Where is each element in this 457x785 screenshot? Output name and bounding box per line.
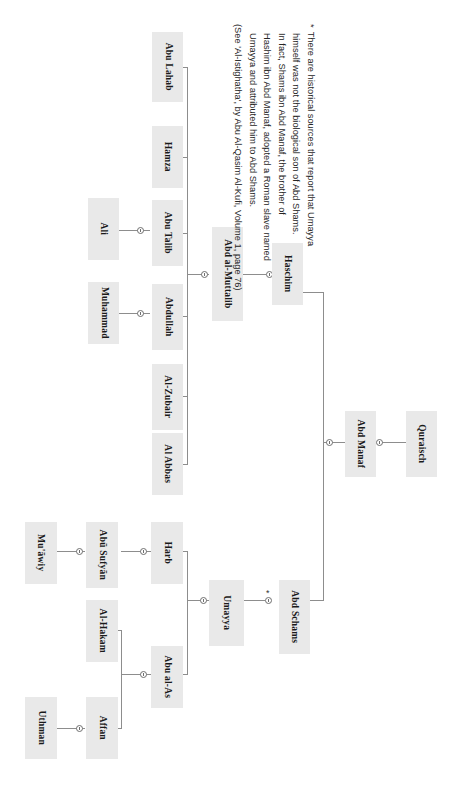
node-label: Ali (99, 223, 109, 236)
node-muawiy[interactable]: Mu'āwiy (25, 522, 57, 584)
node-quraisch[interactable]: Quraisch (406, 411, 437, 477)
junction-abu-talib (137, 227, 144, 234)
node-label: Quraisch (417, 424, 427, 463)
node-label: Affan (97, 716, 107, 740)
node-label: Al-Hakam (97, 609, 107, 653)
node-al-abbas[interactable]: Al Abbas (152, 433, 183, 495)
node-affan[interactable]: Affan (86, 697, 118, 759)
footnote-asterisk: * (306, 24, 316, 28)
node-label: Al Abbas (163, 445, 173, 484)
footnote-line-2: himself was not the biological son of Ab… (289, 24, 304, 286)
node-label: Umayya (222, 596, 232, 631)
junction-abu-al-as (140, 671, 147, 678)
footnote-block: *There are historical sources that repor… (230, 24, 318, 286)
node-abu-sufyan[interactable]: Abū Sufyān (86, 522, 118, 588)
node-label: Mu'āwiy (36, 534, 46, 571)
node-abd-manaf[interactable]: Abd Manaf (345, 411, 376, 477)
junction-abd-schams-umayya (265, 597, 272, 604)
node-umayya[interactable]: Umayya (209, 580, 244, 646)
node-al-zubair[interactable]: Al-Zubair (152, 364, 183, 430)
junction-abd-manaf (326, 439, 333, 446)
edge-quraisch-abd-manaf (382, 442, 406, 443)
junction-abd-al-muttalib (201, 271, 208, 278)
node-label: Abd Manaf (356, 420, 366, 469)
node-label: Uthman (36, 711, 46, 745)
edge-children-bus-umayyads (187, 551, 188, 674)
node-ali[interactable]: Ali (88, 198, 119, 260)
node-abu-talib[interactable]: Abu Talib (152, 200, 183, 266)
node-harb[interactable]: Harb (151, 522, 183, 584)
junction-affan (76, 725, 83, 732)
footnote-marker-edge: * (266, 589, 270, 598)
junction-quraisch (376, 439, 383, 446)
edge-children-bus-abu-al-as (121, 630, 122, 728)
node-muhammad[interactable]: Muhammad (88, 282, 119, 344)
node-hamza[interactable]: Hamza (152, 126, 183, 188)
node-label: Abū Sufyān (97, 530, 107, 580)
footnote-line-6: (See 'Al-Istighatha', by Abu Al-Qasim Al… (230, 24, 245, 286)
edge-abd-schams-umayya (243, 600, 265, 601)
node-abd-schams[interactable]: Abd Schams (279, 580, 310, 654)
node-abu-al-as[interactable]: Abu al-As (151, 646, 183, 708)
junction-harb (140, 548, 147, 555)
footnote-line-5: Umayya and attributed him to Abd Shams. (245, 24, 260, 286)
junction-umayya (200, 597, 207, 604)
node-abu-lahab[interactable]: Abu Lahab (152, 32, 183, 102)
footnote-line-4: Hashim ibn Abd Manaf, adopted a Roman sl… (260, 24, 275, 286)
footnote-line-1: *There are historical sources that repor… (303, 24, 318, 286)
junction-abdullah (137, 310, 144, 317)
junction-abu-sufyan (76, 548, 83, 555)
edge-children-bus-hashimids (187, 67, 188, 464)
node-al-hakam[interactable]: Al-Hakam (86, 600, 118, 662)
edge-abd-manaf-bus (323, 292, 324, 600)
node-label: Harb (162, 542, 172, 564)
edge-abd-manaf-haschim (303, 292, 324, 293)
node-label: Abdullah (163, 297, 173, 337)
node-label: Hamza (163, 142, 173, 172)
node-label: Abu al-As (162, 656, 172, 699)
node-label: Abd Schams (290, 591, 300, 644)
node-label: Al-Zubair (163, 376, 173, 419)
footnote-line-3: In fact, Shams ibn Abd Manaf, the brothe… (274, 24, 289, 286)
node-uthman[interactable]: Uthman (25, 697, 57, 759)
node-label: Muhammad (99, 287, 109, 339)
genealogy-diagram-canvas: * Abu Lahab Hamza Abu Talib Abdullah Al-… (0, 0, 457, 785)
node-label: Abu Talib (163, 212, 173, 254)
footnote-text: There are historical sources that report… (306, 32, 316, 246)
node-label: Abu Lahab (163, 43, 173, 91)
node-abdullah[interactable]: Abdullah (152, 284, 183, 350)
